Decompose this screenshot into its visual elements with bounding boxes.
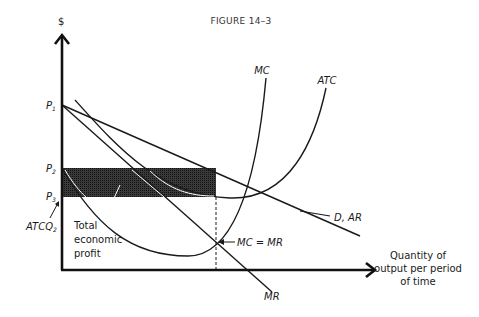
demand-label: D, AR — [334, 212, 362, 223]
profit-label-line3: profit — [74, 248, 101, 259]
profit-rectangle — [62, 168, 216, 197]
x-axis-label-line2: output per period — [374, 263, 462, 274]
mc-label: MC — [254, 65, 270, 76]
figure-title: FIGURE 14–3 — [210, 16, 271, 26]
mr-label: MR — [264, 291, 280, 302]
price-label-p3: P3 — [46, 191, 56, 203]
y-axis-label: $ — [58, 16, 64, 27]
mc-mr-label: MC = MR — [237, 237, 283, 248]
marginal-revenue-curve — [62, 105, 272, 292]
profit-label-line1: Total — [73, 220, 97, 231]
x-axis-label-line3: of time — [400, 276, 435, 287]
economic-profit-diagram: FIGURE 14–3 $ P1 P2 P3 ATCQ2 Total econo… — [0, 0, 479, 317]
x-axis-label-line1: Quantity of — [390, 250, 447, 261]
price-label-p1: P1 — [46, 100, 56, 112]
atc-q2-label: ATCQ2 — [25, 221, 57, 233]
profit-label-line2: economic — [74, 234, 122, 245]
atc-label: ATC — [316, 75, 336, 86]
price-label-p2: P2 — [46, 163, 56, 175]
